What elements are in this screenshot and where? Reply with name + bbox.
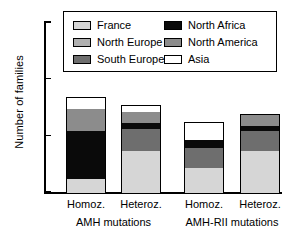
legend-label: France — [97, 20, 131, 31]
legend-label: North Europe — [97, 37, 162, 48]
y-axis-label: Number of families — [13, 27, 25, 177]
x-axis-tick-label: Heteroz. — [225, 198, 286, 210]
legend-item[interactable]: France — [73, 17, 164, 34]
x-axis-tick-label: Heteroz. — [106, 198, 176, 210]
legend-swatch-icon — [73, 38, 91, 47]
legend-swatch-icon — [73, 21, 91, 30]
legend-swatch-icon — [164, 55, 182, 64]
bar[interactable] — [240, 114, 280, 193]
legend-swatch-icon — [73, 55, 91, 64]
bar-segment — [67, 109, 105, 131]
bar-segment — [67, 131, 105, 179]
bar-segment — [67, 98, 105, 109]
bar[interactable] — [121, 105, 161, 193]
x-axis-group-label: AMH mutations — [49, 216, 179, 228]
legend-label: South Europe — [97, 54, 164, 65]
bar[interactable] — [66, 97, 106, 193]
stacked-bar-chart: Number of families 0102030 Homoz.Heteroz… — [0, 0, 286, 237]
bar-segment — [122, 129, 160, 151]
bar-segment — [241, 115, 279, 127]
bar-segment — [241, 131, 279, 151]
bar-segment — [185, 148, 223, 168]
legend-label: North Africa — [188, 20, 245, 31]
legend-swatch-icon — [164, 38, 182, 47]
legend-item[interactable]: South Europe — [73, 51, 164, 68]
bar-segment — [122, 151, 160, 193]
bar-segment — [185, 168, 223, 193]
legend-item[interactable]: North Africa — [164, 17, 258, 34]
legend-item[interactable]: Asia — [164, 51, 258, 68]
bar-segment — [67, 179, 105, 193]
legend-column-left: FranceNorth EuropeSouth Europe — [73, 17, 164, 68]
legend-label: Asia — [188, 54, 209, 65]
legend-swatch-icon — [164, 21, 182, 30]
bar-segment — [185, 140, 223, 148]
legend-label: North America — [188, 37, 258, 48]
legend-item[interactable]: North America — [164, 34, 258, 51]
legend: FranceNorth EuropeSouth Europe North Afr… — [63, 11, 277, 72]
bar-segment — [241, 151, 279, 193]
x-axis-group-label: AMH-RII mutations — [167, 216, 286, 228]
bar[interactable] — [184, 122, 224, 193]
bar-segment — [122, 112, 160, 123]
legend-item[interactable]: North Europe — [73, 34, 164, 51]
legend-column-right: North AfricaNorth AmericaAsia — [164, 17, 258, 68]
bar-segment — [185, 123, 223, 140]
